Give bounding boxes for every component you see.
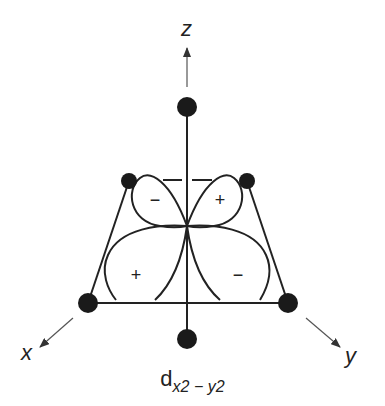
lobe-front-left-inner bbox=[155, 226, 187, 300]
x-axis-label: x bbox=[21, 342, 32, 364]
sign-back-left: − bbox=[150, 191, 161, 209]
orbital-caption: dx2 − y2 bbox=[0, 366, 385, 392]
ligand-top bbox=[177, 97, 197, 117]
ligand-back-right bbox=[239, 173, 255, 189]
left-edge-line bbox=[88, 181, 129, 303]
lobe-front-left bbox=[105, 226, 187, 300]
y-axis-arrow bbox=[306, 318, 340, 347]
lobe-front-right-inner bbox=[187, 226, 220, 300]
ligand-bottom bbox=[177, 329, 197, 349]
caption-subscript: x2 − y2 bbox=[173, 378, 225, 395]
caption-main: d bbox=[160, 366, 172, 391]
z-axis-label: z bbox=[181, 18, 192, 40]
y-axis-label: y bbox=[345, 345, 356, 367]
ligand-back-left bbox=[121, 173, 137, 189]
sign-front-right: − bbox=[233, 266, 244, 284]
ligand-front-left bbox=[78, 293, 98, 313]
ligand-front-right bbox=[278, 293, 298, 313]
lobe-front-right bbox=[187, 226, 269, 300]
sign-back-right: + bbox=[215, 191, 226, 209]
orbital-diagram bbox=[0, 0, 385, 406]
x-axis-arrow bbox=[40, 318, 73, 347]
sign-front-left: + bbox=[131, 266, 142, 284]
